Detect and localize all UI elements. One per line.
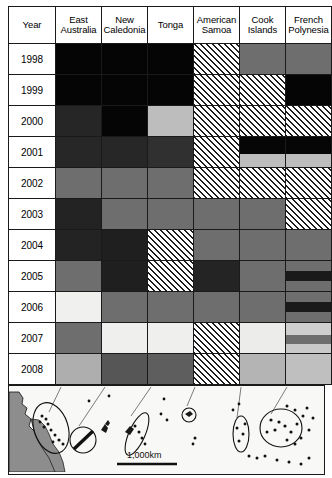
matrix-cell <box>286 323 332 354</box>
matrix-cell <box>286 106 332 137</box>
cell-fill <box>286 44 331 74</box>
matrix-cell <box>56 75 102 106</box>
cell-band <box>286 271 331 281</box>
cell-fill <box>240 168 285 198</box>
cell-fill <box>148 230 193 260</box>
cell-fill <box>148 75 193 105</box>
matrix-cell <box>194 354 240 385</box>
year-cell: 1998 <box>9 44 56 75</box>
cell-fill <box>56 44 101 74</box>
matrix-cell <box>56 137 102 168</box>
table-row: 2003 <box>9 199 332 230</box>
year-cell: 2000 <box>9 106 56 137</box>
cell-fill <box>286 230 331 260</box>
matrix-table: Year East Australia New Caledonia Tonga … <box>8 6 332 385</box>
cell-band <box>286 292 331 302</box>
cell-fill <box>240 137 285 167</box>
cell-fill <box>240 75 285 105</box>
table-header-row: Year East Australia New Caledonia Tonga … <box>9 7 332 44</box>
matrix-cell <box>102 75 148 106</box>
cell-fill <box>194 106 239 136</box>
cell-fill <box>286 323 331 353</box>
cell-band <box>286 302 331 312</box>
year-cell: 2008 <box>9 354 56 385</box>
cell-band <box>286 312 331 322</box>
cell-band <box>286 154 331 168</box>
matrix-cell <box>240 261 286 292</box>
table-row: 1998 <box>9 44 332 75</box>
matrix-cell <box>56 292 102 323</box>
cell-fill <box>56 168 101 198</box>
matrix-cell <box>56 106 102 137</box>
cell-fill <box>194 168 239 198</box>
year-cell: 2007 <box>9 323 56 354</box>
matrix-cell <box>56 168 102 199</box>
year-cell: 2003 <box>9 199 56 230</box>
cell-fill <box>286 354 331 384</box>
cell-fill <box>102 354 147 384</box>
cell-fill <box>56 75 101 105</box>
table-row: 2002 <box>9 168 332 199</box>
cell-fill <box>194 292 239 322</box>
cell-fill <box>286 261 331 291</box>
year-cell: 1999 <box>9 75 56 106</box>
cell-band <box>286 344 331 353</box>
matrix-cell <box>286 137 332 168</box>
cell-fill <box>102 106 147 136</box>
matrix-cell <box>148 44 194 75</box>
cell-fill <box>102 230 147 260</box>
cell-fill <box>56 261 101 291</box>
table-row: 1999 <box>9 75 332 106</box>
matrix-cell <box>102 137 148 168</box>
matrix-cell <box>286 168 332 199</box>
year-cell: 2006 <box>9 292 56 323</box>
matrix-cell <box>56 230 102 261</box>
matrix-cell <box>56 44 102 75</box>
matrix-cell <box>56 261 102 292</box>
column-header-east-australia: East Australia <box>56 7 102 44</box>
matrix-cell <box>148 354 194 385</box>
matrix-cell <box>102 230 148 261</box>
cell-band <box>240 154 285 168</box>
cell-fill <box>240 44 285 74</box>
matrix-cell <box>102 44 148 75</box>
cell-fill <box>194 137 239 167</box>
cell-fill <box>240 106 285 136</box>
matrix-cell <box>148 323 194 354</box>
cell-fill <box>240 230 285 260</box>
column-header-american-samoa: American Samoa <box>194 7 240 44</box>
cell-fill <box>102 199 147 229</box>
matrix-cell <box>194 323 240 354</box>
cell-fill <box>194 230 239 260</box>
scale-bar-label: 1,000km <box>127 450 162 460</box>
matrix-cell <box>102 354 148 385</box>
cell-fill <box>148 323 193 353</box>
matrix-cell <box>240 75 286 106</box>
cell-fill <box>56 230 101 260</box>
table-row: 2005 <box>9 261 332 292</box>
cell-fill <box>194 354 239 384</box>
matrix-cell <box>102 323 148 354</box>
cell-fill <box>148 168 193 198</box>
cell-fill <box>56 292 101 322</box>
column-header-new-caledonia: New Caledonia <box>102 7 148 44</box>
matrix-cell <box>286 75 332 106</box>
cell-fill <box>148 292 193 322</box>
matrix-cell <box>194 230 240 261</box>
cell-fill <box>194 44 239 74</box>
cell-fill <box>102 75 147 105</box>
cell-fill <box>286 106 331 136</box>
cell-fill <box>148 137 193 167</box>
year-cell: 2005 <box>9 261 56 292</box>
cell-band <box>286 281 331 291</box>
matrix-cell <box>148 137 194 168</box>
matrix-cell <box>240 106 286 137</box>
matrix-cell <box>194 44 240 75</box>
matrix-cell <box>194 137 240 168</box>
cell-fill <box>286 137 331 167</box>
matrix-cell <box>102 261 148 292</box>
matrix-cell <box>240 354 286 385</box>
matrix-cell <box>56 354 102 385</box>
year-cell: 2004 <box>9 230 56 261</box>
